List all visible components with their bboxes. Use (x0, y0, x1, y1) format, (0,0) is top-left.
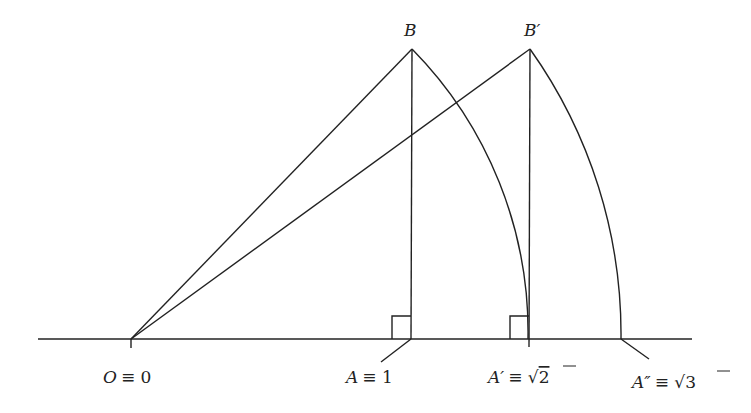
geometric-construction-diagram: B B′ O≡ 0 A≡ 1 A′≡ √2 A″≡ √3 (0, 0, 751, 413)
label-O: O≡ 0 (103, 367, 151, 387)
leader-A-double-prime (621, 339, 649, 359)
segment-OB-prime (131, 49, 530, 339)
label-A-prime: A′≡ √2 (486, 367, 549, 387)
label-A: A≡ 1 (344, 367, 393, 387)
label-B: B (403, 20, 417, 40)
leader-A (381, 339, 411, 362)
right-angle-marker-A-prime (510, 316, 529, 339)
arc-B-prime-to-A-double-prime (530, 49, 621, 339)
right-angle-marker-A (392, 316, 411, 339)
segment-A-prime-B-prime (529, 49, 530, 347)
segment-AB (411, 49, 412, 339)
label-A-double-prime: A″≡ √3 (630, 372, 696, 392)
label-B-prime: B′ (523, 20, 540, 40)
segment-OB (131, 49, 412, 339)
